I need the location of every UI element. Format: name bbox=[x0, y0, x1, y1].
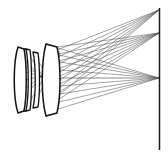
ray-bundle-upper-field bbox=[57, 10, 159, 96]
lens-element-3-meniscus bbox=[33, 52, 40, 108]
optical-diagram-canvas: Optical ray trace of a compound photogra… bbox=[0, 0, 168, 159]
lens-element-1-biconvex bbox=[14, 47, 26, 113]
lens-group bbox=[14, 44, 60, 116]
lens-element-4-biconvex bbox=[42, 44, 60, 116]
ray-trace-svg bbox=[0, 0, 168, 159]
